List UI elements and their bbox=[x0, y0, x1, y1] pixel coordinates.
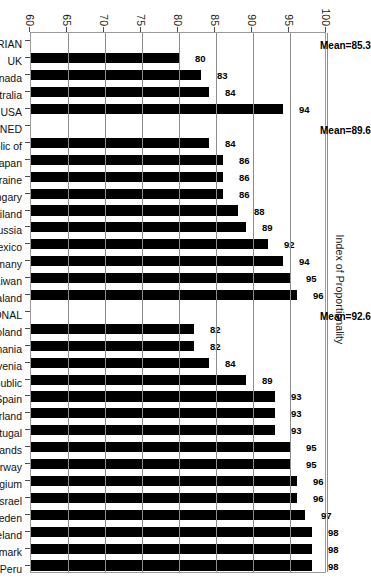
bar-value-label: 83 bbox=[217, 70, 228, 81]
bar-value-label: 95 bbox=[306, 459, 317, 470]
bar bbox=[31, 87, 209, 97]
y-axis-tick-label: 95 bbox=[283, 0, 295, 26]
category-tick-mark bbox=[25, 565, 30, 566]
category-label: Russia bbox=[0, 224, 22, 236]
bar-slot: 94 bbox=[31, 104, 325, 114]
bar bbox=[31, 239, 268, 249]
bar bbox=[31, 341, 194, 351]
category-label: UK bbox=[7, 55, 22, 67]
gridline bbox=[179, 33, 180, 572]
category-label: Japan bbox=[0, 157, 22, 169]
category-tick-mark bbox=[25, 395, 30, 396]
category-tick-mark bbox=[25, 463, 30, 464]
category-label: Portugal bbox=[0, 427, 22, 439]
bar-slot: 98 bbox=[31, 560, 325, 570]
bar-slot: 82 bbox=[31, 341, 325, 351]
gridline bbox=[290, 33, 291, 572]
bar-slot: 82 bbox=[31, 324, 325, 334]
category-tick-mark bbox=[25, 243, 30, 244]
bar bbox=[31, 510, 305, 520]
category-label: Hungary bbox=[0, 191, 22, 203]
category-tick-mark bbox=[25, 548, 30, 549]
y-axis-tick-mark bbox=[66, 27, 67, 32]
bar bbox=[31, 138, 209, 148]
bar-slot: 89 bbox=[31, 375, 325, 385]
bar-value-label: 94 bbox=[299, 256, 310, 267]
bar bbox=[31, 560, 312, 570]
bar-slot: 95 bbox=[31, 442, 325, 452]
bar-slot: 98 bbox=[31, 527, 325, 537]
bar-value-label: 95 bbox=[306, 273, 317, 284]
category-tick-mark bbox=[25, 142, 30, 143]
category-label: Ukraine bbox=[0, 174, 22, 186]
category-label: New Zealand bbox=[0, 292, 22, 304]
category-tick-mark bbox=[25, 125, 30, 126]
category-tick-mark bbox=[25, 328, 30, 329]
y-axis-tick-label: 75 bbox=[135, 0, 147, 26]
plot-frame: 8083849484868686888992949596828284899393… bbox=[30, 32, 326, 573]
category-tick-mark bbox=[25, 429, 30, 430]
category-tick-mark bbox=[25, 412, 30, 413]
bar-slot: 96 bbox=[31, 493, 325, 503]
bar-value-label: 96 bbox=[313, 290, 324, 301]
bar bbox=[31, 544, 312, 554]
category-label: MAJORITARIAN bbox=[0, 38, 22, 50]
category-label: Denmark bbox=[0, 546, 22, 558]
bar-value-label: 86 bbox=[239, 188, 250, 199]
category-label: Peru bbox=[0, 563, 22, 575]
bar bbox=[31, 375, 246, 385]
category-tick-mark bbox=[25, 514, 30, 515]
y-axis-tick-label: 60 bbox=[24, 0, 36, 26]
bar-value-label: 93 bbox=[291, 425, 302, 436]
category-label: Taiwan bbox=[0, 275, 22, 287]
y-axis-tick-mark bbox=[177, 27, 178, 32]
bar-value-label: 88 bbox=[254, 205, 265, 216]
bar-value-label: 89 bbox=[262, 374, 273, 385]
bar-value-label: 86 bbox=[239, 171, 250, 182]
bar bbox=[31, 155, 223, 165]
gridline bbox=[253, 33, 254, 572]
bar bbox=[31, 358, 209, 368]
bar-slot: 94 bbox=[31, 256, 325, 266]
bar-slot: 95 bbox=[31, 459, 325, 469]
category-label: PROPORTIONAL bbox=[0, 309, 22, 321]
bar bbox=[31, 476, 297, 486]
category-tick-mark bbox=[25, 193, 30, 194]
bar-slot: 84 bbox=[31, 358, 325, 368]
category-label: Czech Republic bbox=[0, 377, 22, 389]
bar-value-label: 86 bbox=[239, 154, 250, 165]
category-label: COMBINED bbox=[0, 123, 22, 135]
bar-slot: 92 bbox=[31, 239, 325, 249]
category-label: Thailand bbox=[0, 208, 22, 220]
bar bbox=[31, 527, 312, 537]
bar bbox=[31, 442, 290, 452]
category-label: Canada bbox=[0, 72, 22, 84]
bar bbox=[31, 172, 223, 182]
category-tick-mark bbox=[25, 91, 30, 92]
category-tick-mark bbox=[25, 497, 30, 498]
bar-slot: 95 bbox=[31, 273, 325, 283]
category-tick-mark bbox=[25, 531, 30, 532]
bar-slot: 96 bbox=[31, 476, 325, 486]
category-label: Iceland bbox=[0, 529, 22, 541]
category-tick-mark bbox=[25, 379, 30, 380]
bar bbox=[31, 222, 246, 232]
bar-slot: 86 bbox=[31, 172, 325, 182]
category-tick-mark bbox=[25, 446, 30, 447]
bar-slot: 93 bbox=[31, 425, 325, 435]
category-tick-mark bbox=[25, 57, 30, 58]
category-tick-mark bbox=[25, 362, 30, 363]
bar-value-label: 98 bbox=[328, 543, 339, 554]
y-axis-tick-mark bbox=[251, 27, 252, 32]
y-axis-tick-label: 100 bbox=[320, 0, 332, 26]
category-label: Slovenia bbox=[0, 360, 22, 372]
bar-slot: 89 bbox=[31, 222, 325, 232]
bar-slot: 86 bbox=[31, 155, 325, 165]
bar-series: 8083849484868686888992949596828284899393… bbox=[31, 33, 325, 572]
bar-slot: 86 bbox=[31, 189, 325, 199]
bar-value-label: 89 bbox=[262, 222, 273, 233]
y-axis-tick-label: 70 bbox=[98, 0, 110, 26]
bar-value-label: 93 bbox=[291, 408, 302, 419]
bar-value-label: 84 bbox=[225, 357, 236, 368]
